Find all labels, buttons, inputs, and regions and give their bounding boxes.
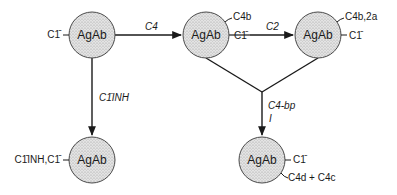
side-label-c4d-c4c: C4d + C4c: [288, 172, 336, 183]
side-label-c1: C1̄: [293, 154, 308, 165]
node-label: AgAb: [77, 153, 107, 167]
edge-label-c4bp: C4-bp: [268, 100, 296, 111]
node-agab-3: AgAb C4b,2a C1̄: [295, 11, 378, 58]
complement-pathway-diagram: C4 C2 C1̄INH C4-bp I AgAb C1̄ AgAb C4b C…: [0, 0, 397, 195]
edge-label-i: I: [269, 113, 272, 124]
side-label-c1: C1̄: [47, 29, 62, 40]
edge-label-c2: C2: [266, 21, 279, 32]
edge-label-c1inh: C1̄INH: [99, 92, 130, 103]
side-label-c4b2a: C4b,2a: [345, 11, 378, 22]
side-label-c1: C1̄: [349, 30, 364, 41]
node-label: AgAb: [191, 28, 221, 42]
node-label: AgAb: [303, 28, 333, 42]
side-label-c1inh-c1: C1̄INH,C1̄: [14, 154, 62, 165]
node-agab-4: AgAb C1̄INH,C1̄: [14, 137, 115, 183]
side-label-c1: C1̄: [234, 30, 249, 41]
side-label-c4b: C4b: [233, 11, 252, 22]
edge-c4: C4: [115, 21, 181, 35]
node-label: AgAb: [247, 153, 277, 167]
node-label: AgAb: [77, 28, 107, 42]
node-agab-5: AgAb C1̄ C4d + C4c: [239, 137, 336, 183]
edge-c4bp: C4-bp I: [206, 58, 318, 135]
node-agab-1: AgAb C1̄: [47, 12, 115, 58]
node-agab-2: AgAb C4b C1̄: [183, 11, 252, 58]
edge-c1inh: C1̄INH: [92, 58, 130, 135]
edge-label-c4: C4: [145, 21, 158, 32]
edge-c2: C2: [250, 21, 293, 35]
